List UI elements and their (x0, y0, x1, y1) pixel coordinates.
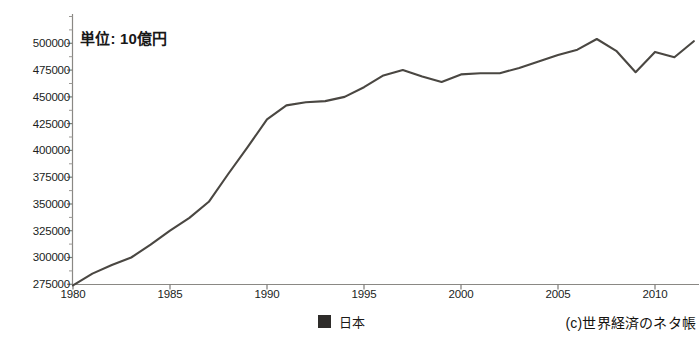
data-series-japan (73, 39, 694, 285)
y-tick-label-300000: 300000 (2, 251, 70, 263)
y-tick-label-500000: 500000 (2, 37, 70, 49)
x-tick-label-1990: 1990 (249, 288, 285, 300)
x-tick-label-2010: 2010 (637, 288, 673, 300)
legend-label-japan: 日本 (339, 312, 365, 331)
x-tick-label-2005: 2005 (540, 288, 576, 300)
x-tick-label-1985: 1985 (152, 288, 188, 300)
unit-annotation: 単位: 10億円 (80, 27, 167, 48)
x-tick-label-1980: 1980 (55, 288, 91, 300)
x-tick-label-1995: 1995 (346, 288, 382, 300)
chart-credit: (c)世界経済のネタ帳 (565, 312, 696, 332)
y-tick-label-400000: 400000 (2, 144, 70, 156)
x-tick-label-2000: 2000 (443, 288, 479, 300)
y-tick-label-325000: 325000 (2, 225, 70, 237)
y-tick-label-450000: 450000 (2, 91, 70, 103)
legend-swatch-japan-icon (318, 315, 331, 328)
y-tick-label-350000: 350000 (2, 198, 70, 210)
chart-container: 500000 475000 450000 425000 400000 37500… (0, 0, 699, 342)
y-tick-label-425000: 425000 (2, 118, 70, 130)
chart-legend: 日本 (318, 312, 365, 331)
y-tick-label-475000: 475000 (2, 64, 70, 76)
y-tick-label-375000: 375000 (2, 171, 70, 183)
